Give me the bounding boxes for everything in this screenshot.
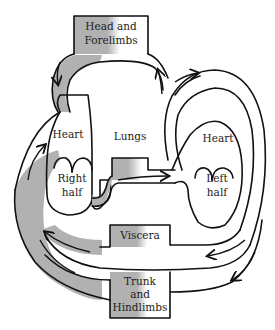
- right-half-label-line1: Right: [58, 172, 88, 184]
- circulation-diagram: Head and Forelimbs Heart Left half Visce…: [0, 0, 275, 330]
- lungs-label: Lungs: [114, 130, 147, 142]
- trunk-label-line3: Hindlimbs: [113, 301, 168, 313]
- left-half-label-line1: Left: [206, 172, 228, 184]
- viscera-box: Viscera: [100, 225, 170, 247]
- trunk-label-line2: and: [130, 288, 150, 300]
- deoxygenated-vessels: [15, 40, 102, 300]
- lungs-vessel: [92, 158, 175, 207]
- arrow-to-viscera: [208, 240, 245, 256]
- left-heart: Heart Left half: [165, 70, 266, 245]
- head-label-line2: Forelimbs: [84, 34, 137, 46]
- left-heart-label: Heart: [203, 132, 235, 144]
- viscera-label: Viscera: [119, 229, 160, 241]
- right-heart-label: Heart: [53, 128, 85, 140]
- right-half-label-line2: half: [62, 186, 83, 198]
- head-label-line1: Head and: [85, 20, 137, 32]
- arrow-to-trunk: [232, 252, 255, 280]
- trunk-label-line1: Trunk: [124, 275, 157, 287]
- left-half-label-line2: half: [207, 186, 228, 198]
